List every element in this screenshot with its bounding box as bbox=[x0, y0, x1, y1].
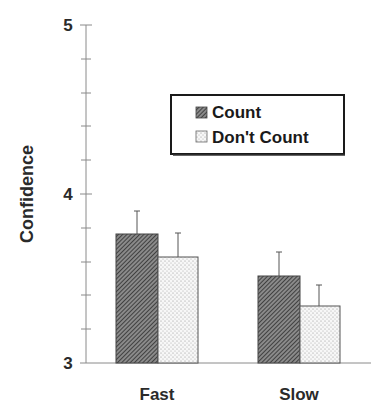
bar-slow-dontcount bbox=[300, 306, 340, 363]
legend-swatch-dontcount bbox=[196, 131, 207, 142]
bar-slow-count bbox=[258, 276, 300, 363]
bar-fast-count bbox=[116, 234, 158, 363]
bar-group-slow bbox=[258, 252, 340, 363]
y-axis-label: Confidence bbox=[17, 145, 37, 243]
legend: Count Don't Count bbox=[171, 95, 345, 155]
chart-svg: 5 4 3 Confidence Fast Slow Count Don't C… bbox=[0, 0, 383, 415]
x-label-fast: Fast bbox=[140, 385, 175, 404]
bar-fast-dontcount bbox=[158, 257, 198, 363]
bar-group-fast bbox=[116, 211, 198, 363]
legend-label-dontcount: Don't Count bbox=[212, 128, 309, 147]
y-tick-label-4: 4 bbox=[63, 185, 73, 204]
y-axis: 5 4 3 Confidence bbox=[17, 16, 92, 373]
legend-label-count: Count bbox=[212, 103, 261, 122]
x-label-slow: Slow bbox=[279, 385, 319, 404]
legend-swatch-count bbox=[196, 107, 207, 118]
y-tick-label-5: 5 bbox=[63, 16, 72, 35]
y-tick-label-3: 3 bbox=[63, 354, 72, 373]
x-axis: Fast Slow bbox=[80, 363, 371, 404]
